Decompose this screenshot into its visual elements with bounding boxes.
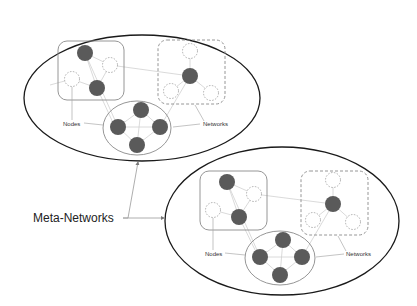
filled-node [272, 267, 288, 283]
empty-node [204, 86, 219, 101]
filled-node [275, 232, 291, 248]
empty-node [65, 72, 80, 87]
filled-node [325, 196, 341, 212]
empty-node [206, 203, 221, 218]
dashed-network-box [158, 40, 225, 104]
empty-node [247, 187, 262, 202]
empty-node [183, 44, 198, 59]
nodes-label: Nodes [205, 251, 222, 257]
filled-node [129, 137, 145, 153]
meta-networks-callout: Meta-Networks [33, 162, 164, 225]
filled-node [110, 119, 126, 135]
empty-node [346, 215, 361, 230]
edges [50, 51, 211, 145]
center-network [245, 231, 315, 285]
filled-node [77, 45, 93, 61]
filled-node [219, 174, 235, 190]
filled-node [152, 119, 168, 135]
networks-label: Networks [203, 121, 228, 127]
dashed-network-box [301, 171, 368, 235]
filled-node [89, 80, 105, 96]
filled-node [231, 209, 247, 225]
filled-node [182, 68, 198, 84]
meta-network-top-left: Nodes Networks [24, 35, 260, 161]
empty-node [326, 173, 341, 188]
networks-label: Networks [346, 251, 371, 257]
edges [213, 180, 353, 275]
filled-node [252, 249, 268, 265]
center-network [103, 101, 171, 155]
empty-node [164, 84, 179, 99]
meta-networks-diagram: Nodes Networks [0, 0, 417, 306]
meta-network-bottom-right: Nodes Networks [165, 147, 399, 295]
meta-networks-label: Meta-Networks [33, 211, 114, 225]
empty-node [306, 213, 321, 228]
nodes-label: Nodes [63, 121, 80, 127]
filled-node [294, 249, 310, 265]
empty-node [103, 58, 118, 73]
filled-node [133, 102, 149, 118]
